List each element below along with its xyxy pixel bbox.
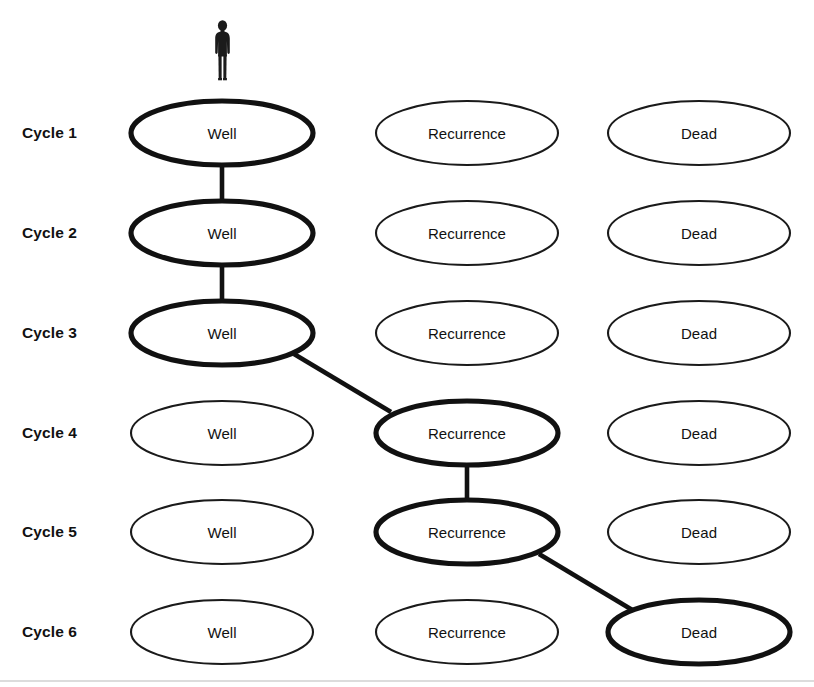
person-icon <box>215 20 230 80</box>
transition-well3-recurrence4 <box>294 354 391 412</box>
diagram-canvas: Cycle 1 Cycle 2 Cycle 3 Cycle 4 Cycle 5 … <box>0 0 814 687</box>
node-label-recurrence-cycle-2: Recurrence <box>428 225 506 242</box>
transition-recurrence5-dead6 <box>539 554 634 611</box>
row-label-cycle-5: Cycle 5 <box>22 523 77 541</box>
node-label-dead-cycle-4: Dead <box>681 425 717 442</box>
node-label-dead-cycle-2: Dead <box>681 225 717 242</box>
node-label-recurrence-cycle-4: Recurrence <box>428 425 506 442</box>
row-label-cycle-6: Cycle 6 <box>22 623 77 641</box>
row-label-cycle-4: Cycle 4 <box>22 424 77 442</box>
node-label-well-cycle-5: Well <box>207 524 236 541</box>
node-label-recurrence-cycle-6: Recurrence <box>428 624 506 641</box>
state-transition-diagram <box>0 0 814 687</box>
node-label-recurrence-cycle-3: Recurrence <box>428 325 506 342</box>
node-label-well-cycle-6: Well <box>207 624 236 641</box>
row-label-cycle-3: Cycle 3 <box>22 324 77 342</box>
node-label-dead-cycle-3: Dead <box>681 325 717 342</box>
node-label-dead-cycle-6: Dead <box>681 624 717 641</box>
node-label-recurrence-cycle-5: Recurrence <box>428 524 506 541</box>
row-label-cycle-2: Cycle 2 <box>22 224 77 242</box>
node-label-recurrence-cycle-1: Recurrence <box>428 125 506 142</box>
node-label-well-cycle-4: Well <box>207 425 236 442</box>
node-label-dead-cycle-1: Dead <box>681 125 717 142</box>
node-label-well-cycle-2: Well <box>207 225 236 242</box>
row-label-cycle-1: Cycle 1 <box>22 124 77 142</box>
node-label-dead-cycle-5: Dead <box>681 524 717 541</box>
node-label-well-cycle-3: Well <box>207 325 236 342</box>
node-label-well-cycle-1: Well <box>207 125 236 142</box>
